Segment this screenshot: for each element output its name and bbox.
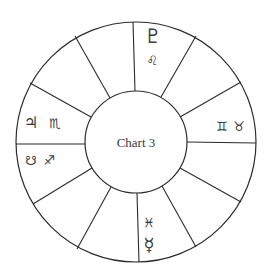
chart-title: Chart 3 [117, 135, 156, 150]
leo-icon: ♌ [146, 53, 158, 68]
jupiter-icon: ♃ [24, 113, 38, 132]
astrology-chart-wheel: Chart 3 ♇ ♌ ♊ ♉ ♃ ♏ ☋ ♐ ♓ ☿ [0, 0, 269, 280]
sagittarius-icon: ♐ [43, 153, 55, 168]
taurus-icon: ♉ [233, 119, 245, 134]
south-node-icon: ☋ [25, 153, 37, 168]
gemini-icon: ♊ [216, 119, 228, 134]
pisces-icon: ♓ [143, 215, 155, 230]
mercury-icon: ☿ [143, 234, 154, 255]
pluto-icon: ♇ [144, 24, 162, 48]
scorpio-icon: ♏ [49, 116, 61, 131]
